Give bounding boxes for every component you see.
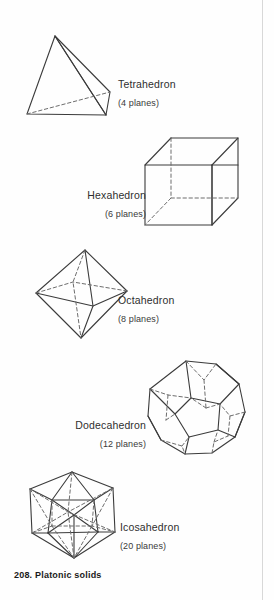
tetrahedron-name: Tetrahedron [118, 79, 176, 90]
octahedron-label: Octahedron (8 planes) [118, 295, 174, 324]
icosahedron-drawing [22, 470, 122, 562]
hexahedron-name: Hexahedron [42, 190, 146, 201]
icosahedron-name: Icosahedron [120, 522, 179, 533]
icosahedron-planes: (20 planes) [120, 542, 179, 551]
icosahedron-figure [22, 470, 122, 562]
figure-caption: 208. Platonic solids [14, 570, 102, 580]
tetrahedron-planes: (4 planes) [118, 99, 176, 108]
tetrahedron-figure [18, 26, 118, 122]
dodecahedron-label: Dodecahedron (12 planes) [38, 420, 146, 449]
dodecahedron-name: Dodecahedron [38, 420, 146, 431]
octahedron-planes: (8 planes) [118, 315, 174, 324]
octahedron-name: Octahedron [118, 295, 174, 306]
dodecahedron-planes: (12 planes) [38, 440, 146, 449]
hexahedron-label: Hexahedron (6 planes) [42, 190, 146, 219]
dodecahedron-drawing [144, 358, 250, 460]
dodecahedron-figure [144, 358, 250, 460]
page-right-rule [262, 0, 263, 600]
figure-page: Tetrahedron (4 planes) Hexahedron (6 pla… [0, 0, 274, 600]
icosahedron-label: Icosahedron (20 planes) [120, 522, 179, 551]
tetrahedron-label: Tetrahedron (4 planes) [118, 79, 176, 108]
hexahedron-figure [142, 128, 242, 228]
tetrahedron-drawing [18, 26, 118, 122]
hexahedron-drawing [142, 128, 242, 228]
hexahedron-planes: (6 planes) [42, 210, 146, 219]
